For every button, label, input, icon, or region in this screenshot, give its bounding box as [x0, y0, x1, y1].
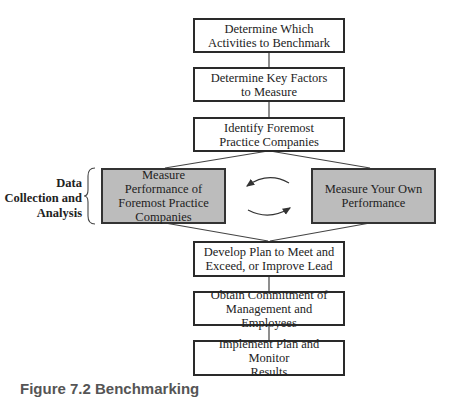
- step-measure-own: Measure Your Own Performance: [311, 168, 436, 224]
- connector-s4a-s5: [165, 223, 268, 241]
- connector-s3-s4a: [165, 151, 268, 168]
- step-implement-plan: Implement Plan and Monitor Results: [193, 340, 345, 376]
- curly-brace-icon: [84, 168, 95, 224]
- step-label: Identify Foremost Practice Companies: [219, 121, 319, 149]
- step-label: Measure Your Own Performance: [325, 182, 423, 210]
- step-develop-plan: Develop Plan to Meet and Exceed, or Impr…: [193, 241, 345, 277]
- step-obtain-commitment: Obtain Commitment of Management and Empl…: [193, 291, 345, 326]
- cycle-arrow-right-icon: [248, 208, 290, 215]
- step-label: Determine Key Factors to Measure: [211, 71, 328, 99]
- connector-s4b-s5: [270, 223, 370, 241]
- step-determine-key-factors: Determine Key Factors to Measure: [193, 67, 345, 102]
- connector-s3-s4b: [270, 151, 370, 168]
- step-determine-activities: Determine Which Activities to Benchmark: [193, 18, 345, 53]
- step-label: Determine Which Activities to Benchmark: [208, 22, 330, 50]
- step-label: Develop Plan to Meet and Exceed, or Impr…: [204, 245, 335, 273]
- group-label: Data Collection and Analysis: [0, 176, 82, 221]
- step-measure-foremost: Measure Performance of Foremost Practice…: [101, 168, 226, 224]
- step-label: Obtain Commitment of Management and Empl…: [199, 288, 339, 330]
- step-identify-companies: Identify Foremost Practice Companies: [193, 117, 345, 152]
- figure-caption: Figure 7.2 Benchmarking: [20, 380, 199, 397]
- step-label: Measure Performance of Foremost Practice…: [118, 168, 209, 224]
- cycle-arrow-left-icon: [247, 178, 289, 186]
- step-label: Implement Plan and Monitor Results: [199, 337, 339, 379]
